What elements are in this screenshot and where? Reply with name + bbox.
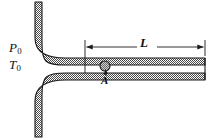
label-station-a: A bbox=[101, 75, 108, 86]
upper-duct-wall bbox=[35, 2, 205, 65]
label-duct-length: L bbox=[140, 36, 148, 49]
label-stagnation-temperature: T0 bbox=[9, 58, 21, 71]
station-a-marker-circle bbox=[100, 61, 110, 71]
schematic-svg bbox=[0, 0, 218, 139]
lower-duct-wall bbox=[35, 73, 205, 137]
figure-canvas: P0 T0 L A bbox=[0, 0, 218, 139]
lower-wall-shape bbox=[35, 73, 205, 137]
label-stagnation-pressure: P0 bbox=[9, 41, 21, 54]
label-stagnation-pressure-subscript: 0 bbox=[17, 46, 21, 56]
upper-wall-shape bbox=[35, 2, 205, 65]
label-stagnation-temperature-subscript: 0 bbox=[16, 63, 20, 73]
